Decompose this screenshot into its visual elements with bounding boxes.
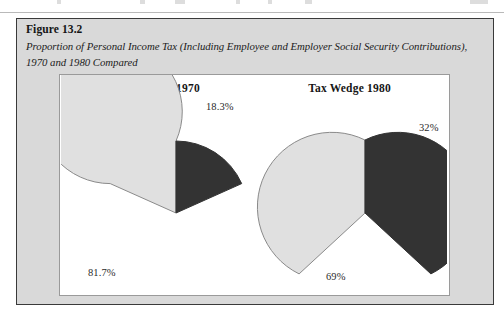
pie-slice-1970-tax-wedge: [176, 141, 242, 213]
pie-slice-1980-tax-wedge: [365, 132, 447, 274]
pie-chart-1970: Tax Wedge 1970 18.3% 81.7%: [61, 75, 256, 295]
figure-number: Figure 13.2: [26, 23, 82, 35]
pie-chart-1980: Tax Wedge 1980 32% 69%: [252, 75, 447, 295]
figure-panel: Figure 13.2 Proportion of Personal Incom…: [16, 18, 494, 305]
pie-value-label-1970-tax-wedge: 18.3%: [206, 101, 234, 112]
page-rule: [0, 12, 504, 13]
figure-caption: Proportion of Personal Income Tax (Inclu…: [26, 39, 488, 70]
pie-slice-1980-remainder: [257, 132, 365, 274]
pie-svg-1980: [252, 75, 447, 295]
pie-value-label-1980-remainder: 69%: [326, 271, 346, 282]
chart-panel: Tax Wedge 1970 18.3% 81.7% Tax Wedge 198…: [59, 74, 450, 296]
pie-value-label-1980-tax-wedge: 32%: [419, 122, 439, 133]
pie-slice-1970-remainder: [61, 75, 182, 213]
pie-value-label-1970-remainder: 81.7%: [88, 267, 116, 278]
